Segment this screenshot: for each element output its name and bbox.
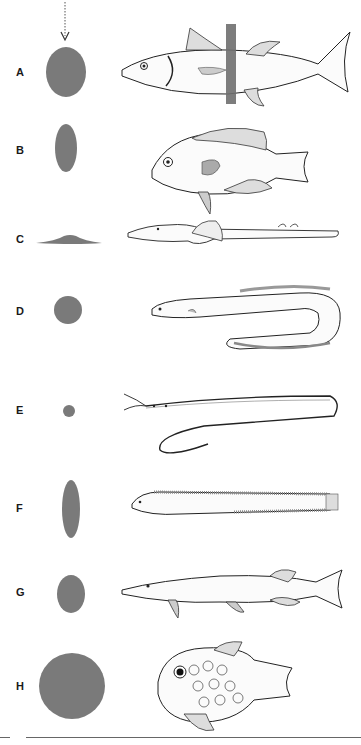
fish-h-illustration [154, 640, 304, 732]
cross-section-e [62, 404, 76, 418]
label-f: F [16, 502, 23, 514]
row-c: C [0, 205, 361, 265]
row-a: A [0, 0, 361, 110]
label-c: C [16, 233, 24, 245]
cross-section-g [56, 574, 86, 614]
label-a: A [16, 66, 24, 78]
cross-section-f [61, 480, 81, 540]
fish-g-illustration [120, 570, 345, 620]
cross-section-b [54, 123, 78, 173]
row-f: F [0, 480, 361, 570]
label-d: D [16, 305, 24, 317]
cross-section-d [53, 295, 83, 325]
row-h: H [0, 640, 361, 735]
fish-e-illustration [124, 392, 344, 462]
fish-f-illustration [130, 486, 340, 520]
fish-a-illustration [118, 20, 358, 105]
bottom-rule [26, 737, 361, 738]
fish-d-illustration [150, 283, 350, 353]
row-b: B [0, 110, 361, 205]
label-h: H [16, 680, 24, 692]
row-g: G [0, 570, 361, 640]
label-e: E [16, 404, 23, 416]
label-g: G [16, 586, 25, 598]
cross-section-a [45, 46, 87, 98]
fish-c-illustration [128, 219, 328, 251]
row-d: D [0, 265, 361, 380]
label-b: B [16, 144, 24, 156]
cross-section-h [38, 652, 106, 720]
arrow-indicator-icon [60, 2, 70, 46]
cross-section-c [36, 234, 102, 246]
bottom-rule-short [0, 737, 10, 738]
fish-b-illustration [148, 122, 308, 210]
row-e: E [0, 380, 361, 480]
